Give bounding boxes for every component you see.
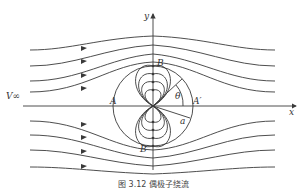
streamline bbox=[30, 167, 275, 174]
streamline bbox=[30, 36, 275, 50]
figure-caption: 图 3.12 偶极子绕流 bbox=[0, 178, 307, 188]
streamline bbox=[30, 45, 275, 66]
theta-label: θ bbox=[175, 92, 180, 101]
x-axis-label: x bbox=[289, 108, 294, 117]
point-a-label: A bbox=[110, 97, 117, 106]
y-axis-label: y bbox=[144, 12, 149, 21]
radius-label: a bbox=[180, 117, 185, 126]
point-b-prime-label: B′ bbox=[140, 145, 149, 154]
v-infinity-label: V∞ bbox=[6, 92, 20, 101]
point-b-label: B bbox=[157, 59, 164, 68]
streamline bbox=[30, 54, 275, 81]
flow-diagram bbox=[0, 0, 307, 188]
point-a-prime-label: A′ bbox=[193, 97, 202, 106]
